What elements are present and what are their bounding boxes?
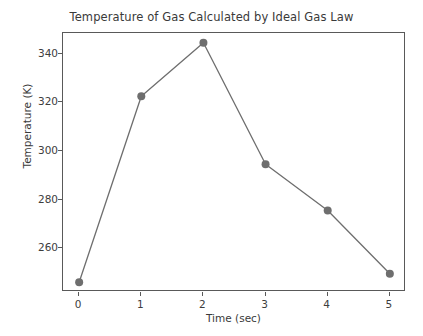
- x-axis-label: Time (sec): [62, 312, 405, 324]
- x-tick-mark: [389, 292, 390, 296]
- x-tick-label: 3: [250, 298, 280, 310]
- x-tick-mark: [78, 292, 79, 296]
- y-axis-label: Temperature (K): [21, 51, 33, 201]
- data-line: [79, 43, 390, 283]
- y-tick-mark: [58, 101, 62, 102]
- x-tick-mark: [202, 292, 203, 296]
- data-point-marker: [262, 160, 270, 168]
- data-point-marker: [324, 207, 332, 215]
- x-tick-mark: [140, 292, 141, 296]
- y-tick-label: 260: [14, 241, 58, 253]
- data-point-marker: [386, 270, 394, 278]
- x-tick-mark: [327, 292, 328, 296]
- x-tick-label: 2: [187, 298, 217, 310]
- chart-title: Temperature of Gas Calculated by Ideal G…: [0, 10, 423, 24]
- y-tick-mark: [58, 247, 62, 248]
- x-tick-label: 0: [63, 298, 93, 310]
- y-tick-mark: [58, 199, 62, 200]
- y-axis-tick-labels: 260280300320340: [10, 32, 58, 291]
- data-point-marker: [199, 39, 207, 47]
- data-point-marker: [137, 92, 145, 100]
- plot-area: [62, 32, 405, 291]
- x-tick-label: 1: [125, 298, 155, 310]
- x-tick-mark: [265, 292, 266, 296]
- y-tick-mark: [58, 150, 62, 151]
- data-series-svg: [63, 33, 406, 292]
- x-tick-label: 5: [374, 298, 404, 310]
- chart-figure: Temperature of Gas Calculated by Ideal G…: [0, 0, 423, 336]
- y-tick-mark: [58, 53, 62, 54]
- data-point-marker: [75, 278, 83, 286]
- x-tick-label: 4: [312, 298, 342, 310]
